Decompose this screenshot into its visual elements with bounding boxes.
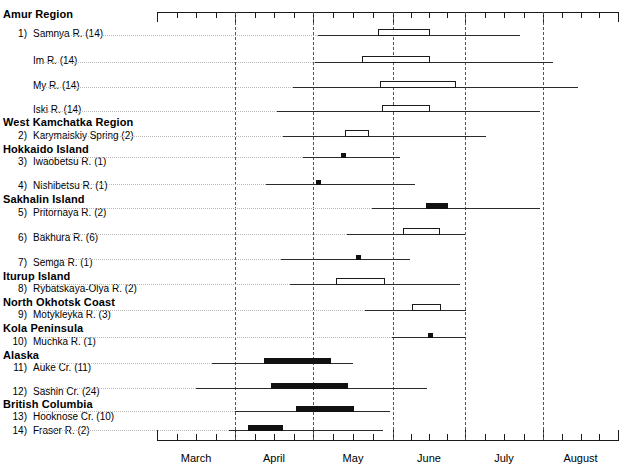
month-label: April (235, 452, 313, 464)
row-number: 4) (3, 180, 27, 192)
region-heading-alaska: Alaska (3, 349, 39, 361)
leader-line (40, 284, 290, 285)
axis-tick-minor (333, 12, 334, 18)
axis-tick-minor (411, 434, 412, 441)
leader-line (40, 136, 283, 137)
region-heading-kola: Kola Peninsula (3, 322, 83, 334)
axis-tick-minor (216, 434, 217, 441)
region-heading-sakhalin: Sakhalin Island (3, 193, 85, 205)
row-number: 6) (3, 232, 27, 244)
axis-top-line (157, 12, 618, 13)
axis-tick-minor (177, 12, 178, 18)
leader-line (40, 411, 235, 412)
axis-tick-minor (504, 12, 505, 18)
range-line (266, 184, 415, 185)
quartile-box-open (412, 304, 441, 311)
axis-bottom-line (157, 440, 618, 441)
data-point-marker (356, 255, 361, 260)
row-number: 5) (3, 207, 27, 219)
gridline-jul-1 (465, 12, 466, 440)
axis-tick-minor (485, 434, 486, 441)
leader-line (40, 430, 229, 431)
month-label: May (313, 452, 393, 464)
row-name: Nishibetsu R. (1) (33, 180, 107, 192)
data-point-marker (341, 153, 346, 158)
axis-tick-minor (447, 12, 448, 18)
axis-tick-major (618, 430, 619, 441)
axis-tick-major (157, 12, 158, 22)
row-number: 7) (3, 257, 27, 269)
region-heading-amur: Amur Region (3, 8, 73, 20)
axis-tick-minor (411, 12, 412, 18)
range-line (281, 259, 410, 260)
quartile-box-filled (264, 358, 331, 364)
row-number: 9) (3, 309, 27, 321)
row-number: 1) (3, 28, 27, 40)
quartile-box-open (378, 29, 430, 36)
axis-tick-minor (447, 434, 448, 441)
row-name: Hooknose Cr. (10) (33, 411, 114, 423)
leader-line (40, 35, 318, 36)
row-name: Samnya R. (14) (33, 28, 103, 40)
data-point-marker (428, 333, 433, 338)
axis-tick-minor (562, 434, 563, 441)
axis-tick-minor (333, 434, 334, 441)
quartile-box-open (403, 228, 440, 235)
axis-tick-minor (353, 12, 354, 18)
axis-tick-minor (373, 12, 374, 18)
row-number: 12) (3, 386, 27, 398)
leader-line (40, 184, 266, 185)
axis-tick-minor (294, 434, 295, 441)
axis-tick-minor (599, 12, 600, 18)
axis-tick-minor (524, 12, 525, 18)
quartile-box-open (380, 81, 456, 88)
range-line (303, 157, 400, 158)
axis-tick-minor (562, 12, 563, 18)
axis-tick-minor (429, 12, 430, 18)
quartile-box-filled (296, 406, 354, 412)
quartile-box-filled (426, 203, 448, 209)
row-name: Iski R. (14) (33, 104, 81, 116)
region-heading-iturup: Iturup Island (3, 270, 70, 282)
row-number: 11) (3, 362, 27, 374)
leader-line (40, 234, 347, 235)
row-name: Fraser R. (2) (33, 425, 90, 437)
axis-tick-minor (581, 434, 582, 441)
region-heading-british-columbia: British Columbia (3, 398, 93, 410)
axis-tick-minor (353, 434, 354, 441)
leader-line (40, 363, 212, 364)
leader-line (40, 388, 196, 389)
leader-line (40, 310, 365, 311)
figure-root: Amur Region 1) Samnya R. (14) Im R. (14)… (0, 0, 627, 476)
axis-tick-minor (485, 12, 486, 18)
quartile-box-filled (248, 425, 283, 431)
month-label: June (393, 452, 465, 464)
region-heading-hokkaido: Hokkaido Island (3, 143, 89, 155)
axis-tick-minor (274, 434, 275, 441)
leader-line (40, 62, 315, 63)
axis-tick-major (618, 12, 619, 22)
region-heading-north-okhotsk: North Okhotsk Coast (3, 296, 115, 308)
gridline-may-1 (313, 12, 314, 440)
month-label: July (465, 452, 543, 464)
row-name: Im R. (14) (33, 55, 77, 67)
axis-tick-minor (294, 12, 295, 18)
data-point-marker (316, 180, 321, 185)
axis-tick-minor (524, 434, 525, 441)
gridline-aug-1 (543, 12, 544, 440)
month-label: August (543, 452, 618, 464)
row-number: 10) (3, 336, 27, 348)
row-number: 8) (3, 283, 27, 295)
axis-tick-minor (255, 12, 256, 18)
axis-tick-major (157, 430, 158, 441)
axis-tick-minor (177, 434, 178, 441)
leader-line (40, 157, 303, 158)
region-heading-west-kamchatka: West Kamchatka Region (3, 116, 133, 128)
axis-tick-minor (196, 434, 197, 441)
axis-tick-minor (216, 12, 217, 18)
axis-tick-minor (255, 434, 256, 441)
quartile-box-open (362, 56, 430, 63)
leader-line (40, 259, 281, 260)
axis-tick-minor (373, 434, 374, 441)
leader-line (40, 208, 372, 209)
